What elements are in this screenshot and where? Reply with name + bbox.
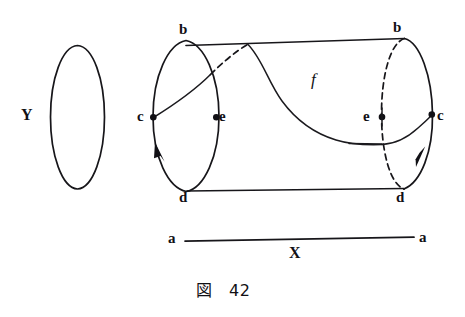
- vertex-label-c-right: c: [437, 108, 444, 123]
- cylinder-top-ruling: [186, 39, 405, 46]
- curve-f-tail: [382, 115, 432, 145]
- vertex-label-d-left: d: [179, 190, 187, 205]
- arc-from-c-hidden: [211, 44, 249, 74]
- arc-from-c-front: [154, 75, 211, 118]
- vertex-label-c-left: c: [137, 109, 144, 124]
- right-e-connector: [349, 144, 382, 145]
- cylinder-bottom-ruling: [187, 189, 404, 192]
- base-interval-segment: [185, 237, 414, 241]
- curve-f-path: [248, 44, 383, 145]
- cylinder-right-end-ellipse-front: [404, 39, 433, 190]
- vertex-label-b-left: b: [179, 22, 187, 37]
- vertex-dot-c-right: [429, 111, 436, 118]
- cylinder-left-end-ellipse: [153, 41, 219, 192]
- cylinder-right-end-ellipse-hidden: [382, 39, 405, 190]
- vertex-label-e-right: e: [363, 109, 370, 124]
- codomain-oval-Y-shape: [51, 46, 105, 190]
- vertex-label-e-left: e: [219, 109, 226, 124]
- space-label-X: X: [289, 245, 301, 261]
- map-label-f: f: [311, 71, 316, 88]
- figure-caption: 図 42: [196, 277, 250, 301]
- vertex-label-b-right: b: [393, 20, 401, 35]
- figure-drawing-canvas: [0, 0, 465, 317]
- figure-42: b b d d c e e c a a X Y f 図 42: [0, 0, 465, 317]
- vertex-label-a-left: a: [168, 231, 176, 246]
- vertex-label-d-right: d: [396, 190, 404, 205]
- space-label-Y: Y: [21, 107, 33, 123]
- vertex-label-a-right: a: [419, 230, 427, 245]
- vertex-dot-c-left: [150, 114, 157, 121]
